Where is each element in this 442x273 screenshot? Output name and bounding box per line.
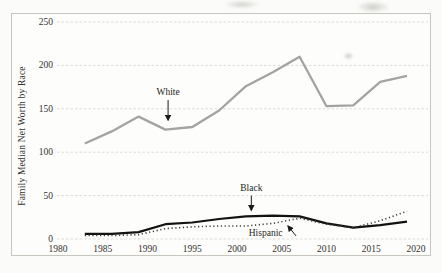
chart: Family Median Net Worth by Race 05010015… bbox=[0, 0, 442, 273]
y-tick-label-0: 0 bbox=[19, 234, 53, 244]
y-tick-label-250: 250 bbox=[19, 17, 53, 27]
x-tick-label-2015: 2015 bbox=[362, 244, 381, 254]
chart-canvas bbox=[0, 0, 442, 273]
series-lines bbox=[85, 57, 407, 236]
x-tick-label-2000: 2000 bbox=[228, 244, 247, 254]
hispanic-annotation-label: Hispanic bbox=[249, 228, 283, 238]
white-annotation-label: White bbox=[156, 87, 179, 97]
white-series-line bbox=[85, 57, 407, 144]
black-annotation-label: Black bbox=[240, 183, 262, 193]
x-tick-label-1995: 1995 bbox=[183, 244, 202, 254]
y-tick-label-100: 100 bbox=[19, 147, 53, 157]
y-tick-label-200: 200 bbox=[19, 60, 53, 70]
x-tick-label-1990: 1990 bbox=[138, 244, 157, 254]
x-tick-label-1985: 1985 bbox=[93, 244, 112, 254]
y-tick-label-150: 150 bbox=[19, 104, 53, 114]
y-tick-label-50: 50 bbox=[19, 191, 53, 201]
x-tick-label-2010: 2010 bbox=[317, 244, 336, 254]
black-series-line bbox=[85, 216, 407, 234]
hispanic-annotation-arrow bbox=[288, 226, 296, 236]
x-tick-label-1980: 1980 bbox=[49, 244, 68, 254]
x-tick-label-2005: 2005 bbox=[272, 244, 291, 254]
x-tick-label-2020: 2020 bbox=[407, 244, 426, 254]
